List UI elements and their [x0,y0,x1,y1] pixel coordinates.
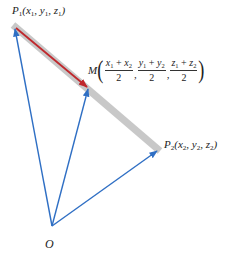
m-name: M [88,64,97,76]
label-p2: P2(x2, y2, z2) [164,139,217,152]
fraction-y: y1 + y2 2 [138,57,166,83]
vector-p1-m [16,28,87,87]
midpoint-diagram [0,0,231,258]
label-origin: O [45,238,54,250]
fraction-z: z1 + z2 2 [170,57,197,83]
fraction-x: x1 + x2 2 [105,57,133,83]
label-p1: P1(x1, y1, z1) [12,5,65,18]
label-midpoint-m: M ( x1 + x2 2 , y1 + y2 2 , z1 + z2 2 ) [88,57,205,83]
vector-o-p2 [52,151,157,226]
vector-o-m [52,89,88,226]
vector-o-p1 [15,29,52,226]
